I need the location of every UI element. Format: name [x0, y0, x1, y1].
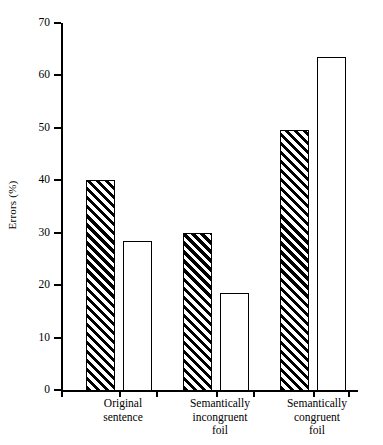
y-axis-tick-label: 20 — [20, 279, 50, 291]
y-axis-tick-label: 50 — [20, 122, 50, 134]
y-axis-line — [61, 23, 63, 392]
y-axis-tick-mark — [54, 232, 61, 234]
y-axis-ticks: 706050403020100 — [0, 0, 61, 445]
y-axis-tick-mark — [54, 127, 61, 129]
bar-congruent-foil-hatched — [280, 130, 309, 391]
y-axis-tick-label: 0 — [20, 384, 50, 396]
y-axis-tick-label: 30 — [20, 227, 50, 239]
x-axis-category-label: Original sentence — [68, 397, 178, 424]
y-axis-tick-label: 60 — [20, 69, 50, 81]
bar-incongruent-foil-open — [220, 293, 249, 391]
y-axis-tick-mark — [54, 179, 61, 181]
y-axis-tick-mark — [54, 74, 61, 76]
y-axis-tick-label: 70 — [20, 17, 50, 29]
bar-original-sentence-hatched — [86, 180, 115, 391]
y-axis-tick-mark — [54, 389, 61, 391]
y-axis-tick-mark — [54, 337, 61, 339]
bar-incongruent-foil-hatched — [183, 233, 212, 391]
y-axis-tick-label: 40 — [20, 174, 50, 186]
x-axis-line — [61, 390, 358, 392]
bar-chart: Errors (%) 706050403020100 Original sent… — [0, 0, 383, 445]
x-axis-category-label: Semantically incongruent foil — [165, 397, 275, 438]
y-axis-tick-mark — [54, 22, 61, 24]
y-axis-tick-label: 10 — [20, 332, 50, 344]
x-axis-category-label: Semantically congruent foil — [262, 397, 372, 438]
y-axis-tick-mark — [54, 284, 61, 286]
bar-congruent-foil-open — [317, 57, 346, 391]
bar-original-sentence-open — [123, 241, 152, 391]
